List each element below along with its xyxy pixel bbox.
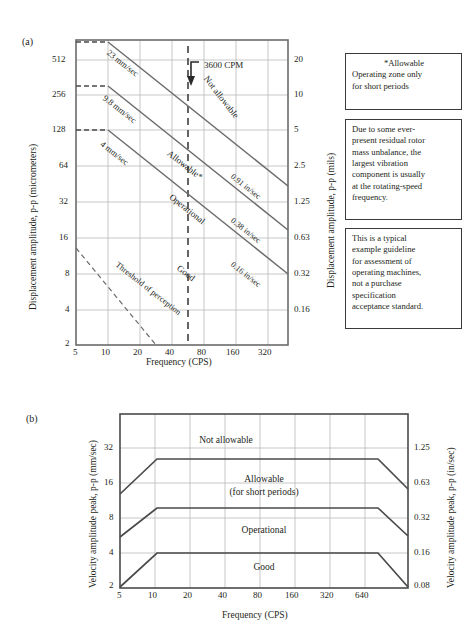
chart-a-xtick-160: 160 <box>226 347 240 357</box>
chart-b-zone-operational: Operational <box>242 525 287 535</box>
chart-b-zone-not-allowable: Not allowable <box>199 435 253 445</box>
chart-a-ytickr-0p16: 0.16 <box>294 304 310 314</box>
note-allowable-line-0: *Allowable <box>352 58 456 69</box>
chart-b-ylabel-right: Velocity amplitude peak, p-p (in/sec) <box>446 447 456 588</box>
chart-a-xtick-320: 320 <box>258 347 272 357</box>
note-guideline-line-4: not a purchase <box>352 278 456 289</box>
chart-a-xtick-40: 40 <box>165 347 174 357</box>
chart-b-ytickr-0p08: 0.08 <box>414 580 430 590</box>
figure-container: (a) Displacement amplitude, p-p (microme… <box>0 0 468 639</box>
chart-a-xtick-10: 10 <box>101 347 110 357</box>
chart-a-ytick-2: 2 <box>65 338 70 348</box>
chart-b-xtick-20: 20 <box>183 590 192 600</box>
chart-a-label-4mms: 4 mm/sec <box>98 139 130 167</box>
chart-a-ytick-128: 128 <box>52 124 66 134</box>
note-guideline-line-5: specification <box>352 290 456 301</box>
note-guideline-line-3: operating machines, <box>352 267 456 278</box>
chart-a-ylabel-right: Displacement amplitude, p-p (mils) <box>326 153 336 288</box>
chart-a-ytickr-20: 20 <box>294 54 303 64</box>
note-unbalance-line-6: frequency. <box>352 192 456 203</box>
chart-b-xtick-320: 320 <box>320 590 334 600</box>
chart-b-xlabel: Frequency (CPS) <box>222 610 288 620</box>
chart-a-label-98mms: 9.8 mm/sec <box>101 93 138 125</box>
chart-a-zone-operational: Operational <box>167 192 207 226</box>
note-allowable: *Allowable Operating zone only for short… <box>345 53 462 110</box>
note-unbalance-line-1: present residual rotor <box>352 135 456 146</box>
chart-a-zone-good: Good <box>175 263 197 283</box>
chart-a-label-091inspersec: 0.91 in/sec <box>229 172 263 201</box>
chart-a-3600cpm-arrow <box>187 62 199 86</box>
chart-a-ytickr-10: 10 <box>294 89 303 99</box>
chart-a-ytick-32: 32 <box>59 196 68 206</box>
chart-b-xtick-5: 5 <box>117 590 122 600</box>
note-guideline: This is a typical example guideline for … <box>345 228 462 329</box>
note-unbalance: Due to some ever- present residual rotor… <box>345 119 462 220</box>
chart-b-ytickr-0p32: 0.32 <box>414 512 430 522</box>
chart-b-zone-allowable-sub: (for short periods) <box>229 487 298 497</box>
chart-a-ytick-8: 8 <box>65 268 70 278</box>
chart-b-ylabel-left: Velocity amplitude peak, p-p (mm/sec) <box>88 440 98 588</box>
chart-a-label-016inspersec: 0.16 in/sec <box>229 260 263 289</box>
chart-b-xtick-80: 80 <box>253 590 262 600</box>
chart-b-xtick-10: 10 <box>148 590 157 600</box>
chart-b-ytick-32: 32 <box>104 442 113 452</box>
chart-b-ytick-2: 2 <box>109 580 114 590</box>
note-guideline-line-1: example guideline <box>352 244 456 255</box>
chart-a-xtick-20: 20 <box>133 347 142 357</box>
chart-a-ytick-4: 4 <box>65 304 70 314</box>
chart-b-zone-allowable: Allowable <box>244 474 284 484</box>
chart-a-label-038inspersec: 0.38 in/sec <box>229 216 263 245</box>
chart-a-annotation-3600cpm: 3600 CPM <box>204 60 243 70</box>
chart-b-ytickr-1p25: 1.25 <box>414 442 430 452</box>
chart-a-xtick-80: 80 <box>197 347 206 357</box>
note-unbalance-line-2: mass unbalance, the <box>352 147 456 158</box>
chart-a-ytickr-2p5: 2.5 <box>294 160 305 170</box>
chart-b-xtick-160: 160 <box>285 590 299 600</box>
note-guideline-line-0: This is a typical <box>352 233 456 244</box>
note-guideline-line-2: for assessment of <box>352 256 456 267</box>
chart-a-xtick-5: 5 <box>73 347 78 357</box>
chart-b-ytickr-0p63: 0.63 <box>414 477 430 487</box>
chart-a-ylabel-left: Displacement amplitude, p-p (micrometers… <box>28 144 38 310</box>
note-allowable-line-2: for short periods <box>352 81 456 92</box>
chart-a-zone-allowable: Allowable* <box>165 148 204 182</box>
chart-a-ytick-512: 512 <box>52 54 66 64</box>
chart-b-ytick-4: 4 <box>109 547 114 557</box>
note-unbalance-line-0: Due to some ever- <box>352 124 456 135</box>
panel-a-label: (a) <box>22 36 33 47</box>
chart-a-ytickr-0p32: 0.32 <box>294 268 310 278</box>
chart-b-ytickr-0p16: 0.16 <box>414 547 430 557</box>
note-unbalance-line-5: at the rotating-speed <box>352 181 456 192</box>
chart-a-ytickr-5: 5 <box>294 124 299 134</box>
chart-b-xtick-40: 40 <box>218 590 227 600</box>
chart-a-xlabel: Frequency (CPS) <box>146 357 212 367</box>
note-allowable-line-1: Operating zone only <box>352 69 456 80</box>
chart-a-ytick-16: 16 <box>59 232 68 242</box>
chart-a-ytickr-1p25: 1.25 <box>294 196 310 206</box>
chart-a-ytickr-0p63: 0.63 <box>294 232 310 242</box>
note-guideline-line-6: acceptance standard. <box>352 301 456 312</box>
chart-b-ytick-16: 16 <box>104 477 113 487</box>
chart-a-ytick-64: 64 <box>59 160 68 170</box>
chart-b-ytick-8: 8 <box>109 512 114 522</box>
chart-a-label-23mms: 23 mm/sec <box>105 48 141 79</box>
note-unbalance-line-3: largest vibration <box>352 158 456 169</box>
note-unbalance-line-4: component is usually <box>352 169 456 180</box>
panel-b-label: (b) <box>26 413 38 424</box>
chart-b-zone-good: Good <box>253 562 274 572</box>
chart-a-ytick-256: 256 <box>52 89 66 99</box>
chart-a-zone-not-allowable: Not allowable <box>202 74 241 120</box>
chart-a-threshold-label: Threshold of perception <box>114 260 183 317</box>
chart-b-xtick-640: 640 <box>355 590 369 600</box>
